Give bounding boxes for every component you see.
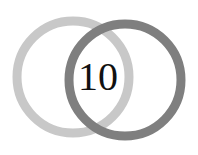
- number-label: 10: [62, 55, 134, 99]
